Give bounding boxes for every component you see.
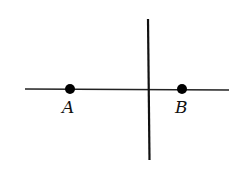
horizontal-line: [25, 89, 229, 90]
point-b: [177, 84, 187, 94]
label-a: A: [60, 97, 74, 117]
label-b: B: [174, 97, 188, 117]
diagram: A B: [0, 0, 251, 179]
point-a: [65, 84, 75, 94]
vertical-line: [148, 19, 150, 160]
